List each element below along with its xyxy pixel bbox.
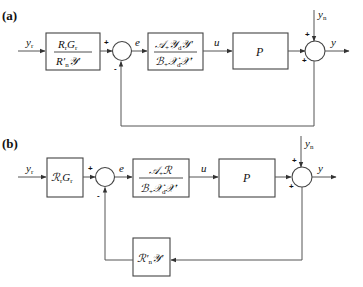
feedback-path	[121, 61, 314, 126]
summing-junction-1	[96, 168, 115, 187]
sum2-left-plus-sign: +	[289, 182, 294, 191]
output-signal-label: y	[330, 36, 336, 48]
sum1-plus-sign: +	[88, 164, 93, 173]
panel-b: (b) yr ℛrGr + - e 𝒜+ℛ ℬ+𝒳d𝒳′ u P yn + + …	[2, 136, 336, 276]
controller-denominator: ℬ+𝒳d𝒳′	[155, 55, 193, 69]
feedback-path-right	[171, 187, 302, 260]
error-signal-label: e	[135, 36, 140, 48]
sum2-top-plus-sign: +	[305, 30, 310, 39]
prefilter-label: ℛrGr	[51, 171, 73, 185]
summing-junction-2	[305, 41, 325, 61]
error-signal-label: e	[119, 162, 124, 174]
prefilter-denominator: R′n𝒴′	[55, 55, 81, 69]
sum1-minus-sign: -	[97, 191, 100, 200]
sum2-left-plus-sign: +	[302, 56, 307, 65]
noise-signal-label: yn	[317, 8, 327, 22]
panel-a: (a) yr RrGr R′n𝒴′ + - e 𝒜+𝒴d𝒴′ ℬ+𝒳d𝒳′ u …	[2, 8, 349, 126]
feedback-path-left	[105, 188, 133, 261]
panel-a-label: (a)	[2, 8, 17, 23]
plant-label: P	[255, 45, 264, 59]
block-diagram: (a) yr RrGr R′n𝒴′ + - e 𝒜+𝒴d𝒴′ ℬ+𝒳d𝒳′ u …	[0, 0, 363, 287]
controller-denominator: ℬ+𝒳d𝒳′	[140, 182, 178, 196]
control-signal-label: u	[201, 162, 207, 174]
input-signal-label: yr	[25, 162, 34, 176]
panel-b-label: (b)	[2, 136, 18, 151]
sum1-minus-sign: -	[114, 64, 117, 73]
control-signal-label: u	[214, 36, 220, 48]
controller-numerator: 𝒜+𝒴d𝒴′	[155, 38, 193, 52]
noise-signal-label: yn	[304, 137, 314, 151]
input-signal-label: yr	[25, 36, 34, 50]
sum1-plus-sign: +	[104, 38, 109, 47]
output-signal-label: y	[317, 162, 323, 174]
prefilter-numerator: RrGr	[57, 38, 78, 52]
sum2-top-plus-sign: +	[292, 156, 297, 165]
summing-junction-2	[292, 167, 312, 187]
plant-label: P	[242, 171, 251, 185]
summing-junction-1	[113, 42, 132, 61]
